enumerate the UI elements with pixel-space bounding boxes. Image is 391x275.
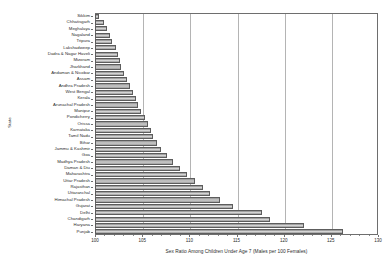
bars-layer — [95, 13, 378, 235]
category-label: Maharashtra — [66, 172, 90, 177]
bar — [95, 64, 121, 69]
category-label: West Bengal — [65, 90, 90, 95]
bar — [95, 77, 127, 82]
bar — [95, 39, 112, 44]
bar — [95, 52, 118, 57]
category-label: Arunachal Pradesh — [53, 103, 90, 108]
bar — [95, 96, 136, 101]
bar — [95, 185, 203, 190]
x-tick-label: 125 — [327, 238, 335, 243]
bar — [95, 210, 262, 215]
y-tick-mark — [91, 194, 93, 195]
category-label: Nagaland — [71, 33, 90, 38]
y-tick-mark — [91, 143, 93, 144]
x-tick-mark-125 — [331, 235, 332, 237]
bar — [95, 83, 130, 88]
y-tick-mark — [91, 61, 93, 62]
x-minor-tick — [133, 235, 134, 236]
bar — [95, 26, 107, 31]
bar — [95, 153, 167, 158]
category-label: Uttaranchal — [68, 191, 90, 196]
x-axis-title: Sex Ratio Among Children Under Age 7 (Ma… — [95, 249, 378, 254]
y-tick-mark — [91, 149, 93, 150]
x-minor-tick — [152, 235, 153, 236]
bar — [95, 121, 148, 126]
bar — [95, 140, 157, 145]
category-label: Assam — [77, 77, 90, 82]
category-label: Manipur — [74, 109, 90, 114]
bar — [95, 20, 104, 25]
category-label: Rajasthan — [70, 185, 90, 190]
category-label: Gujarat — [76, 204, 90, 209]
y-tick-mark — [91, 232, 93, 233]
bar — [95, 45, 116, 50]
bar — [95, 134, 153, 139]
y-tick-mark — [91, 73, 93, 74]
x-minor-tick — [359, 235, 360, 236]
bar — [95, 115, 145, 120]
y-tick-mark — [91, 80, 93, 81]
x-minor-tick — [369, 235, 370, 236]
category-label: Haryana — [74, 223, 90, 228]
x-tick-label: 110 — [186, 238, 193, 243]
category-label: Uttar Pradesh — [63, 179, 90, 184]
x-minor-tick — [180, 235, 181, 236]
y-tick-mark — [91, 118, 93, 119]
sex-ratio-bar-chart: State SikkimChhatisgarhMeghalayaNagaland… — [0, 0, 391, 275]
x-minor-tick — [312, 235, 313, 236]
category-label: Goa — [82, 153, 90, 158]
bar — [95, 33, 110, 38]
y-tick-mark — [91, 105, 93, 106]
x-minor-tick — [255, 235, 256, 236]
y-tick-mark — [91, 99, 93, 100]
y-tick-mark — [91, 206, 93, 207]
x-tick-mark-100 — [95, 235, 96, 237]
x-minor-tick — [340, 235, 341, 236]
x-tick-label: 115 — [233, 238, 240, 243]
bar — [95, 147, 161, 152]
bar — [95, 159, 173, 164]
x-minor-tick — [123, 235, 124, 236]
x-minor-tick — [303, 235, 304, 236]
y-tick-mark — [91, 181, 93, 182]
category-label: Andaman & Nicobar — [51, 71, 90, 76]
bar — [95, 197, 220, 202]
y-tick-mark — [91, 67, 93, 68]
y-tick-mark — [91, 187, 93, 188]
bar — [95, 217, 270, 222]
category-label: Tamil Nadu — [68, 134, 90, 139]
x-minor-tick — [293, 235, 294, 236]
x-minor-tick — [227, 235, 228, 236]
x-tick-mark-130 — [378, 235, 379, 237]
y-tick-mark — [91, 86, 93, 87]
bar — [95, 178, 195, 183]
y-tick-mark — [91, 200, 93, 201]
y-tick-mark — [91, 168, 93, 169]
x-tick-mark-115 — [237, 235, 238, 237]
category-label: Jharkhand — [70, 65, 90, 70]
category-label: Punjab — [77, 230, 91, 235]
y-tick-mark — [91, 54, 93, 55]
category-label: Sikkim — [77, 14, 90, 19]
x-minor-tick — [104, 235, 105, 236]
y-tick-mark — [91, 23, 93, 24]
category-label: Chhatisgarh — [67, 20, 90, 25]
category-label: Mizoram — [73, 58, 90, 63]
y-tick-mark — [91, 92, 93, 93]
y-tick-mark — [91, 162, 93, 163]
y-tick-mark — [91, 35, 93, 36]
x-tick-label: 105 — [138, 238, 146, 243]
category-label: Jammu & Kashmir — [55, 147, 90, 152]
category-label: Meghalaya — [69, 27, 90, 32]
category-label: Pondicherry — [67, 115, 90, 120]
x-tick-label: 100 — [91, 238, 99, 243]
y-tick-mark — [91, 16, 93, 17]
y-tick-mark — [91, 213, 93, 214]
y-tick-mark — [91, 130, 93, 131]
bar — [95, 223, 304, 228]
bar — [95, 102, 138, 107]
category-label: Dadra & Nagar Haveli — [48, 52, 90, 57]
y-tick-mark — [91, 29, 93, 30]
x-minor-tick — [350, 235, 351, 236]
category-label: Tripura — [76, 39, 90, 44]
